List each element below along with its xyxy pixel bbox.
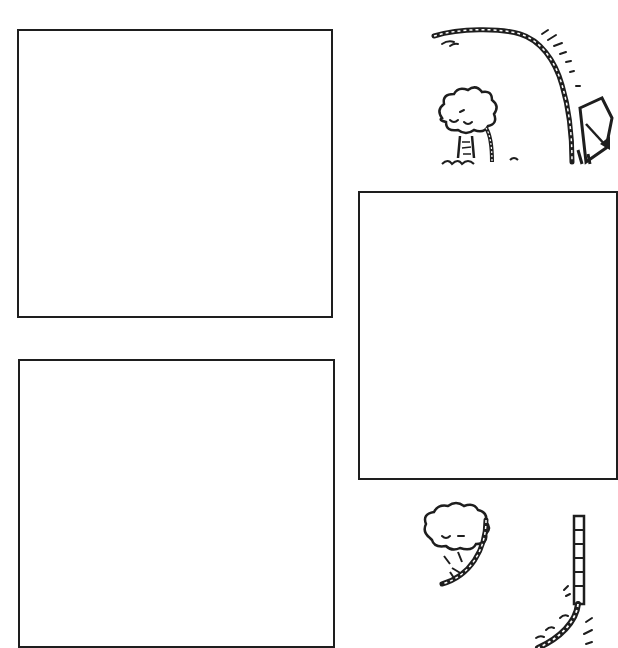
- empty-panel-bottom-left: [18, 359, 335, 648]
- empty-panel-middle-right: [358, 191, 618, 480]
- tree-ladder-vine-illustration: [400, 490, 610, 648]
- vine-tree-slide-illustration: [420, 0, 610, 190]
- edge-copyright-text: [1, 540, 11, 648]
- empty-panel-top-left: [17, 29, 333, 318]
